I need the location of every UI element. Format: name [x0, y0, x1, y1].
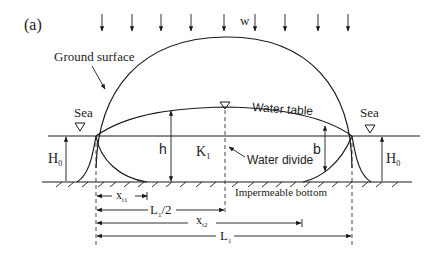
ground-surface-label: Ground surface: [54, 49, 135, 64]
water-table-curve: [96, 107, 352, 136]
sea-left-label: Sea: [74, 105, 93, 120]
h0-right-label: H0: [386, 151, 400, 168]
dimension-half-L: L1/2: [97, 202, 224, 219]
water-divide-label: Water divide: [247, 153, 314, 167]
dimension-xt2: xt2: [97, 213, 302, 229]
recharge-label: w: [240, 13, 250, 28]
island-aquifer-diagram: (a) w Ground surface: [0, 0, 438, 256]
panel-label: (a): [24, 16, 42, 34]
h0-left-label: H0: [48, 151, 62, 168]
sea-right-level-icon: [365, 125, 375, 133]
h-label: h: [159, 141, 167, 157]
dimension-L: L1: [97, 228, 351, 245]
water-table-label: Water table: [252, 100, 314, 118]
k-label: K1: [196, 144, 210, 161]
impermeable-bottom-label: Impermeable bottom: [235, 186, 327, 198]
left-interface-curve: [96, 136, 147, 182]
sea-left-level-icon: [75, 123, 85, 131]
left-sea-toe-curve: [77, 136, 96, 182]
right-sea-toe-curve: [352, 136, 371, 182]
recharge-arrows: [102, 14, 348, 31]
water-divide-pointer: [229, 147, 245, 157]
svg-text:xt1: xt1: [116, 188, 128, 204]
svg-text:xt2: xt2: [196, 213, 208, 229]
b-label: b: [313, 141, 321, 157]
svg-text:L1/2: L1/2: [150, 202, 172, 219]
dimension-xt1: xt1: [97, 188, 147, 204]
water-divide-level-icon: [220, 102, 230, 109]
bottom-hatching: [56, 182, 398, 187]
svg-text:L1: L1: [220, 228, 232, 245]
ground-surface-pointer: [92, 66, 105, 89]
sea-right-label: Sea: [360, 105, 379, 120]
